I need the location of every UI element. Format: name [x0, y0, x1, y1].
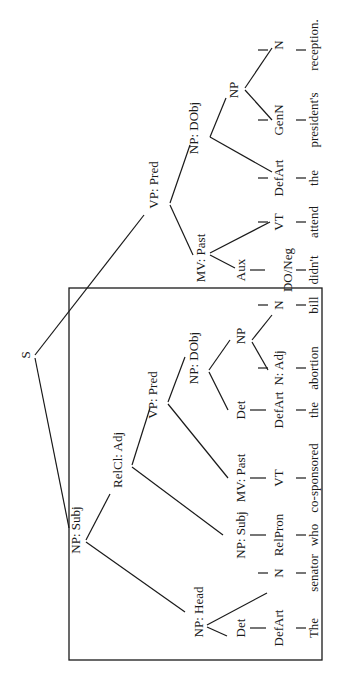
tree-branch [209, 340, 230, 370]
tree-branch [210, 255, 235, 268]
word-w-cosponsored: co-sponsored [306, 443, 321, 513]
tree-branch [35, 215, 144, 355]
node-relpron: RelPron [271, 513, 286, 556]
node-aux: Aux [233, 258, 248, 281]
tree-branch [35, 358, 69, 528]
tree-branch [210, 98, 226, 137]
node-np-head: NP: Head [191, 586, 206, 637]
sentence-words: Thesenatorwhoco-sponsoredtheabortionbill… [306, 19, 321, 638]
tree-branch [168, 357, 185, 402]
tree-branch [168, 404, 228, 478]
tree-canvas: SVP: PredNP: DObjNPNGenNDefArtMV: PastVT… [0, 0, 343, 688]
tree-branch [252, 342, 268, 370]
node-mv-past: MV: Past [193, 233, 208, 282]
tree-node-labels: SVP: PredNP: DObjNPNGenNDefArtMV: PastVT… [18, 40, 295, 647]
node-defart-the2: DefArt [271, 159, 286, 196]
tree-branch [210, 137, 272, 172]
tree-branch [170, 205, 193, 255]
node-genn: GenN [271, 104, 286, 136]
node-defart-the1: DefArt [271, 391, 286, 428]
node-vt-rel: VT [271, 469, 286, 486]
node-np-subj-rel: NP: Subj [233, 511, 248, 558]
node-do-neg: DO/Neg [280, 247, 295, 292]
tree-branch [207, 627, 227, 636]
tree-branch [245, 90, 272, 120]
node-np-gen: NP [226, 82, 241, 99]
node-np-subj: NP: Subj [68, 506, 83, 553]
node-det-head: Det [233, 618, 248, 637]
node-np-dobj-rel: NP: DObj [186, 332, 201, 384]
tree-branch [209, 372, 228, 410]
word-w-reception: reception. [306, 19, 321, 71]
node-n-senator: N [271, 568, 286, 578]
tree-branch [245, 48, 272, 88]
node-vp-pred-rel: VP: Pred [145, 371, 160, 419]
word-w-the2: the [306, 170, 321, 186]
word-w-bill: bill [306, 296, 321, 314]
tree-branch [86, 542, 185, 612]
node-n-reception: N [271, 40, 286, 50]
word-w-the0: The [306, 618, 321, 638]
word-w-senator: senator [306, 554, 321, 592]
tree-branch [132, 467, 223, 535]
node-s: S [18, 351, 33, 358]
node-n-adj: N: Adj [271, 350, 286, 385]
word-w-abortion: abortion [306, 346, 321, 390]
node-defart-the0: DefArt [271, 609, 286, 646]
node-np-dobj: NP: DObj [186, 102, 201, 154]
word-w-attend: attend [306, 206, 321, 238]
tree-branch [252, 315, 272, 340]
node-vt-attend: VT [271, 213, 286, 230]
node-n-bill: N [271, 300, 286, 310]
node-det-rel: Det [233, 400, 248, 419]
node-relcl-adj: RelCl: Adj [110, 432, 125, 488]
node-mv-past-rel: MV: Past [233, 453, 248, 502]
node-vp-pred: VP: Pred [146, 161, 161, 209]
word-w-presidents: president's [306, 92, 321, 147]
syntax-tree-diagram: SVP: PredNP: DObjNPNGenNDefArtMV: PastVT… [0, 0, 343, 688]
tree-branch [86, 494, 110, 540]
word-w-the1: the [306, 402, 321, 418]
word-w-who: who [306, 524, 321, 546]
word-w-didnt: didn't [306, 255, 321, 284]
node-np-rel: NP [233, 328, 248, 345]
tree-branch [210, 222, 270, 253]
